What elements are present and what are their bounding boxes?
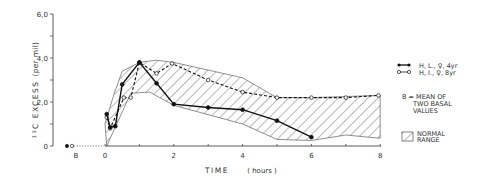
data-point	[122, 96, 126, 100]
x-tick-label: 6	[309, 152, 314, 160]
normal-range-band	[105, 60, 380, 146]
data-point	[206, 78, 210, 82]
data-point	[170, 62, 174, 66]
data-point	[172, 102, 176, 106]
data-point	[377, 94, 381, 98]
normal-range-label-line2: RANGE	[417, 136, 440, 144]
data-point	[206, 106, 210, 110]
legend: H, L., ♀, 4yr H, I., ♀, 8yr B = MEAN OF …	[397, 62, 457, 145]
data-point	[138, 61, 142, 65]
x-tick-label: 8	[378, 152, 382, 160]
svg-text:H, I., ♀, 8yr: H, I., ♀, 8yr	[419, 69, 456, 77]
data-point	[105, 112, 109, 116]
x-tick-label: 4	[240, 152, 245, 160]
x-tick-label: 0	[103, 152, 107, 160]
y-tick-label: 2,0	[37, 99, 48, 107]
data-point	[241, 90, 245, 94]
x-axis-unit: ( hours )	[247, 167, 277, 175]
basal-note-line3: VALUES	[413, 107, 438, 115]
filled-circle-icon	[397, 63, 400, 66]
data-point	[129, 96, 133, 100]
open-circle-icon	[397, 70, 400, 73]
baseline-b-label: B	[74, 152, 79, 160]
data-point	[310, 96, 314, 100]
chart: 13C EXCESS (per mil) 02,04,06,0 02468 B …	[0, 0, 484, 188]
x-axis: 02468	[103, 144, 383, 160]
baseline-open-marker	[70, 144, 73, 147]
hatch-swatch-icon	[402, 132, 413, 141]
data-point	[113, 124, 117, 128]
legend-item-8yr: H, I., ♀, 8yr	[397, 69, 456, 77]
data-point	[108, 125, 112, 129]
baseline-filled-marker	[65, 144, 69, 148]
data-point	[310, 135, 314, 139]
data-point	[275, 96, 279, 100]
data-point	[275, 119, 279, 123]
data-point	[155, 72, 159, 76]
data-point	[120, 83, 124, 87]
data-point	[344, 96, 348, 100]
x-tick-label: 2	[172, 152, 176, 160]
y-tick-label: 0	[44, 143, 48, 151]
x-axis-title: TIME	[204, 166, 229, 175]
data-point	[241, 108, 245, 112]
y-tick-label: 6,0	[37, 11, 48, 19]
data-point	[155, 81, 159, 85]
y-tick-label: 4,0	[37, 55, 48, 63]
